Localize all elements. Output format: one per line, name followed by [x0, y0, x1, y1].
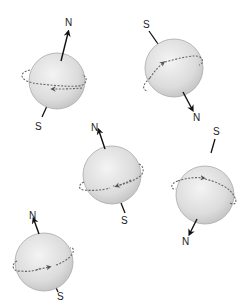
south-label: S [121, 215, 128, 226]
north-pole-arrow [99, 131, 105, 149]
south-pole-axis [149, 31, 158, 44]
south-label: S [143, 19, 150, 30]
spin-2: S N [143, 19, 203, 123]
nucleus-sphere [15, 233, 73, 291]
south-pole-axis [42, 106, 47, 117]
north-label: N [193, 112, 200, 123]
north-label: N [91, 122, 98, 133]
north-pole-arrow [34, 220, 39, 234]
north-label: N [29, 210, 36, 221]
spin-1: N S [22, 17, 86, 132]
north-label: N [182, 236, 189, 247]
nucleus-sphere [83, 146, 141, 204]
south-label: S [57, 291, 64, 301]
spin-3: N S [80, 122, 144, 226]
south-label: S [213, 126, 220, 137]
nucleus-sphere [176, 166, 234, 224]
north-label: N [65, 17, 72, 28]
south-pole-axis [211, 139, 215, 153]
spin-4: S N [172, 126, 236, 247]
south-label: S [35, 121, 42, 132]
south-pole-axis [121, 203, 125, 213]
spin-5: N S [13, 210, 73, 301]
nucleus-sphere [145, 39, 203, 97]
nucleus-sphere [29, 53, 85, 109]
spin-orientation-diagram: N S S N N S S N [0, 0, 249, 301]
north-pole-arrow [183, 92, 192, 109]
